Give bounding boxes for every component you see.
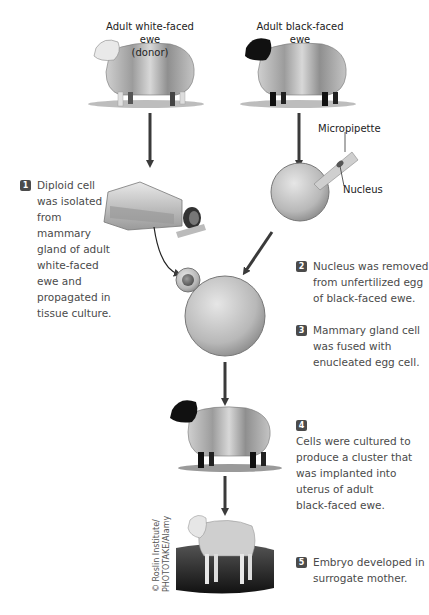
egg-cell-with-micropipette: [271, 132, 358, 221]
micropipette-label: Micropipette: [318, 122, 381, 135]
step-1: 1 Diploid cell was isolated from mammary…: [20, 177, 111, 321]
step-5: 5 Embryo developed in surrogate mother.: [296, 554, 425, 586]
fused-cell-image: [176, 268, 265, 356]
step-badge: 4: [296, 420, 307, 431]
step-2: 2 Nucleus was removed from unfertilized …: [296, 258, 429, 306]
lamb-photo: [176, 515, 274, 593]
step-text: Nucleus was removed from unfertilized eg…: [313, 258, 429, 306]
step-text: Embryo developed in surrogate mother.: [313, 554, 425, 586]
step-badge: 5: [296, 557, 307, 568]
nucleus-label: Nucleus: [343, 183, 383, 196]
donor-title-line: Adult white-faced ewe: [95, 20, 205, 46]
black-faced-ewe-image: [240, 38, 356, 108]
surrogate-ewe-image: [170, 400, 282, 472]
recipient-title: Adult black-faced ewe: [245, 20, 355, 46]
arrow-egg-to-fusion: [245, 232, 272, 272]
step-badge: 3: [296, 325, 307, 336]
step-text: Cells were cultured to produce a cluster…: [296, 433, 412, 513]
step-text: Diploid cell was isolated from mammary g…: [37, 177, 111, 321]
step-badge: 2: [296, 261, 307, 272]
donor-subtitle: (donor): [95, 46, 205, 59]
step-badge: 1: [20, 180, 31, 191]
step-3: 3 Mammary gland cell was fused with enuc…: [296, 322, 420, 370]
donor-title: Adult white-faced ewe (donor): [95, 20, 205, 59]
photo-credit: © Roslin Institute/ PHOTOTAKE/Alamy: [152, 516, 172, 592]
step-4: 4 Cells were cultured to produce a clust…: [296, 417, 429, 513]
step-text: Mammary gland cell was fused with enucle…: [313, 322, 420, 370]
curved-arrow-flask-to-fusion: [154, 227, 178, 274]
